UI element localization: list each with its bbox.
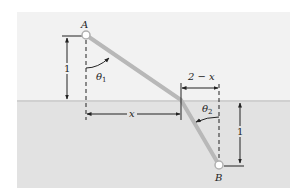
- depth-b-label: 1: [237, 126, 243, 137]
- two-minus-x-label: 2 − x: [187, 71, 215, 82]
- point-b-marker: [215, 161, 223, 169]
- air-region: [17, 12, 290, 101]
- x-label: x: [129, 108, 135, 119]
- point-a-marker: [82, 31, 90, 39]
- point-b-label: B: [214, 172, 222, 183]
- height-a-label: 1: [64, 63, 70, 74]
- refraction-diagram: 1 x 2 − x 1 θ1 θ2 A B: [0, 0, 303, 196]
- point-a-label: A: [80, 19, 88, 30]
